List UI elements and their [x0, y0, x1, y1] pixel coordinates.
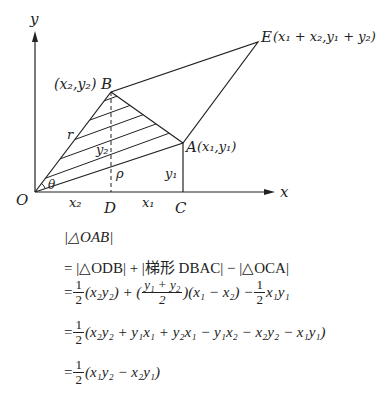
point-a-label: A [184, 138, 197, 156]
r-label: r [67, 127, 74, 142]
x2-label: x₂ [69, 195, 82, 210]
x1-label: x₁ [142, 195, 155, 210]
geometry-figure: y x O (x₂,y₂) B A (x₁,y₁) E (x₁ + x₂,y₁ … [0, 0, 385, 225]
hatch-lines [35, 24, 200, 182]
point-d-label: D [103, 199, 116, 217]
theta-arc [41, 183, 45, 188]
point-a-coord: (x₁,y₁) [197, 139, 236, 154]
fraction-half: 12 [73, 278, 84, 307]
equation-line-5: = 12 (x₁y₂ − x₂y₁) [64, 358, 160, 387]
fraction-half: 12 [73, 318, 84, 347]
fraction-y-sum: y₁ + y₂2 [142, 278, 182, 307]
point-b-label: B [100, 75, 112, 93]
equation-line-3: = 12 (x₂y₂) + ( y₁ + y₂2 )(x₁ − x₂) − 12… [64, 278, 290, 307]
point-c-label: C [175, 199, 187, 217]
origin-label: O [16, 191, 28, 209]
y-axis-label: y [29, 10, 39, 28]
point-b-coord: (x₂,y₂) [54, 76, 96, 92]
point-e-coord: (x₁ + x₂,y₁ + y₂) [273, 29, 376, 44]
theta-label: θ [48, 178, 56, 192]
fraction-half: 12 [73, 358, 84, 387]
fraction-half: 12 [254, 278, 265, 307]
point-e-label: E [260, 28, 272, 46]
equation-line-2: = |△ODB| + |梯形 DBAC| − |△OCA| [64, 256, 289, 277]
y1-label: y₁ [164, 166, 178, 181]
rho-label: ρ [115, 166, 124, 181]
segment-ba [111, 92, 183, 143]
y-axis-arrow-icon [32, 31, 38, 42]
equation-line-4: = 12 (x₂y₂ + y₁x₁ + y₂x₁ − y₁x₂ − x₂y₂ −… [64, 318, 326, 347]
x-axis-label: x [280, 183, 289, 201]
equation-line-1: |△OAB| [64, 228, 113, 246]
x-axis-arrow-icon [264, 189, 275, 195]
y2-label: y₂ [95, 142, 109, 157]
